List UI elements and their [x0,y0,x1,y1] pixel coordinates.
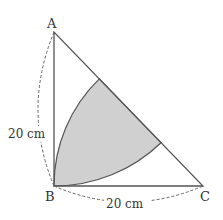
dimension-arc-ab [38,32,54,186]
length-label-bc: 20 cm [106,197,144,211]
length-label-ab: 20 cm [8,127,46,141]
vertex-label-b: B [45,189,55,204]
shaded-region [54,79,161,186]
geometry-figure: A B C 20 cm 20 cm [0,0,223,220]
vertex-label-c: C [200,189,210,204]
vertex-label-a: A [46,16,57,31]
